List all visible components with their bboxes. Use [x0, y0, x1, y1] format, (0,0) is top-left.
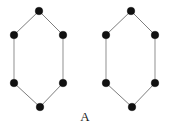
graph-vertex-lower-left: [10, 79, 18, 87]
graph-edge-top-to-upper-right: [39, 11, 63, 35]
graph-edge-upper-left-to-top: [14, 11, 39, 35]
figure-container: A: [0, 0, 170, 131]
graph-vertex-lower-left: [102, 79, 110, 87]
graph-vertex-top: [35, 7, 43, 15]
graphs-layer: [10, 7, 159, 111]
graph-vertex-top: [127, 7, 135, 15]
graph-edge-top-to-upper-right: [131, 11, 155, 35]
graph-vertex-lower-right: [59, 79, 67, 87]
figure-caption: A: [0, 110, 170, 124]
graph-vertex-upper-left: [10, 31, 18, 39]
graph-edge-bottom-to-lower-left: [106, 83, 132, 107]
graph-vertex-upper-right: [151, 31, 159, 39]
graph-vertex-upper-right: [59, 31, 67, 39]
graph-vertex-lower-right: [151, 79, 159, 87]
graph-edge-bottom-to-lower-left: [14, 83, 40, 107]
graph-edge-lower-right-to-bottom: [40, 83, 63, 107]
graph-edge-lower-right-to-bottom: [132, 83, 155, 107]
hexagon-right: [102, 7, 159, 111]
graph-vertex-upper-left: [102, 31, 110, 39]
hexagon-left: [10, 7, 67, 111]
graph-edge-upper-left-to-top: [106, 11, 131, 35]
